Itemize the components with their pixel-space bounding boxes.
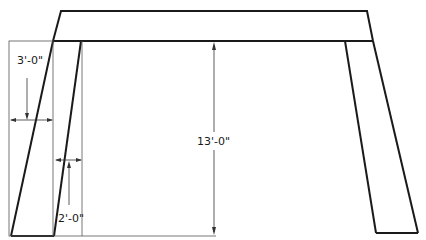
label-3ft: 3'-0" xyxy=(17,54,43,67)
label-13ft: 13'-0" xyxy=(197,135,230,148)
extension-lines xyxy=(9,41,216,236)
label-2ft: 2'-0" xyxy=(58,212,84,225)
left-leg xyxy=(11,41,81,236)
arrow-right-icon xyxy=(76,158,82,162)
top-beam xyxy=(53,11,373,41)
frame-diagram: 3'-0" 2'-0" 13'-0" xyxy=(0,0,426,240)
dimension-13ft: 13'-0" xyxy=(197,42,230,235)
arrow-down-icon xyxy=(212,227,216,235)
arrow-up-icon xyxy=(67,161,71,168)
arrow-left-icon xyxy=(10,118,16,122)
dimension-3ft: 3'-0" xyxy=(10,54,53,122)
arrow-left-icon xyxy=(55,158,61,162)
arrow-right-icon xyxy=(47,118,53,122)
right-leg xyxy=(345,41,418,233)
arrow-up-icon xyxy=(212,42,216,50)
